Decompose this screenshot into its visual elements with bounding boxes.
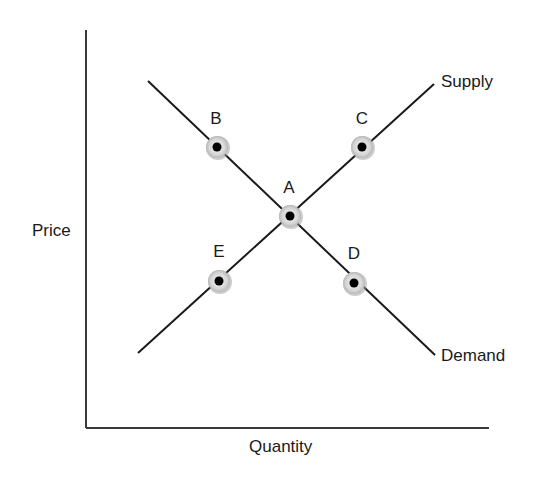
supply-demand-diagram: Supply Demand Price Quantity A B C D E (0, 0, 547, 486)
y-axis-label: Price (32, 221, 71, 240)
supply-label: Supply (441, 72, 493, 91)
point-c: C (351, 109, 375, 160)
point-b: B (206, 109, 230, 160)
point-c-label: C (356, 109, 368, 128)
point-e: E (208, 242, 232, 294)
point-b-label: B (210, 109, 221, 128)
point-a: A (279, 178, 303, 229)
point-a-label: A (283, 178, 295, 197)
point-d-label: D (348, 244, 360, 263)
x-axis-label: Quantity (249, 437, 313, 456)
point-e-label: E (213, 242, 224, 261)
demand-label: Demand (441, 346, 505, 365)
